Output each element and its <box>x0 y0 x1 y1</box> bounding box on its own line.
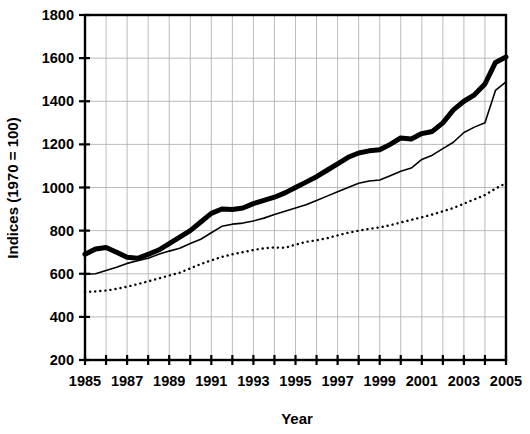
y-tick-label: 800 <box>50 223 74 239</box>
y-tick-label: 400 <box>50 309 74 325</box>
y-tick-label: 1800 <box>42 7 74 23</box>
y-tick-label: 1200 <box>42 136 74 152</box>
x-tick-label: 1991 <box>195 373 227 389</box>
y-tick-label: 600 <box>50 266 74 282</box>
chart-container: 2004006008001000120014001600180019851987… <box>0 0 530 434</box>
x-tick-label: 1985 <box>69 373 101 389</box>
x-tick-label: 2001 <box>406 373 438 389</box>
tick-labels: 2004006008001000120014001600180019851987… <box>42 7 522 389</box>
x-tick-label: 1999 <box>364 373 396 389</box>
x-tick-label: 1989 <box>153 373 185 389</box>
x-tick-label: 1995 <box>279 373 311 389</box>
y-tick-label: 1400 <box>42 93 74 109</box>
x-tick-label: 2005 <box>490 373 522 389</box>
x-tick-label: 1993 <box>237 373 269 389</box>
x-axis-title: Year <box>281 410 313 427</box>
x-tick-label: 2003 <box>448 373 480 389</box>
y-tick-label: 1000 <box>42 180 74 196</box>
y-axis-title: Indices (1970 = 100) <box>4 117 21 258</box>
line-chart: 2004006008001000120014001600180019851987… <box>0 0 530 434</box>
y-tick-label: 1600 <box>42 50 74 66</box>
y-tick-label: 200 <box>50 352 74 368</box>
x-tick-label: 1987 <box>111 373 143 389</box>
x-tick-label: 1997 <box>321 373 353 389</box>
